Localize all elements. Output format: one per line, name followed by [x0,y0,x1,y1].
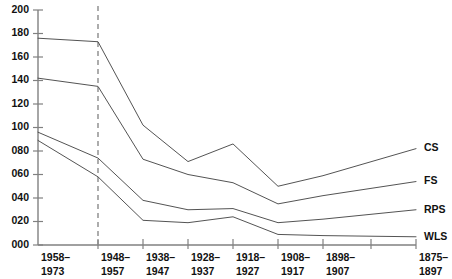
y-axis: 000020040060080100120140160180200 [11,3,43,250]
series-label-rps: RPS [424,203,446,215]
x-tick-label: 1927 [236,265,260,277]
y-tick-label: 040 [11,191,29,203]
series-label-group: CSFSRPSWLS [424,141,447,241]
y-tick-label: 140 [11,73,29,85]
x-tick-label: 1948– [101,251,130,263]
y-tick-label: 180 [11,26,29,38]
series-label-wls: WLS [424,230,447,242]
y-tick-label: 080 [11,144,29,156]
y-tick-label: 160 [11,50,29,62]
x-tick-label: 1928– [191,251,220,263]
series-group [38,38,416,237]
y-tick-label: 120 [11,97,29,109]
series-line-wls [38,140,416,236]
x-tick-label: 1957 [101,265,125,277]
y-tick-label: 000 [11,238,29,250]
series-line-rps [38,132,416,222]
series-label-fs: FS [424,174,437,186]
x-tick-label: 1908– [281,251,310,263]
x-tick-label: 1917 [281,265,305,277]
x-tick-label: 1937 [191,265,215,277]
x-tick-label: 1897 [419,265,443,277]
chart-canvas: 000020040060080100120140160180200 1958–1… [0,0,452,279]
y-tick-label: 100 [11,120,29,132]
x-axis: 1958–19731948–19571938–19471928–19371918… [38,239,448,277]
series-line-fs [38,78,416,204]
series-line-cs [38,38,416,186]
y-tick-label: 200 [11,3,29,15]
x-tick-label: 1907 [326,265,350,277]
y-tick-label: 020 [11,214,29,226]
x-tick-label: 1973 [41,265,65,277]
x-tick-label: 1947 [146,265,170,277]
x-tick-label: 1875– [419,251,448,263]
x-tick-label: 1898– [326,251,355,263]
line-chart: 000020040060080100120140160180200 1958–1… [0,0,452,279]
x-tick-label: 1938– [146,251,175,263]
x-tick-label: 1958– [41,251,70,263]
series-label-cs: CS [424,141,439,153]
y-tick-label: 060 [11,167,29,179]
x-tick-label: 1918– [236,251,265,263]
